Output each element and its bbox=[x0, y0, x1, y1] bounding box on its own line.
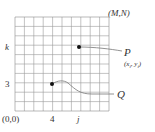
point-q-label: Q bbox=[117, 88, 125, 100]
point-q-dot bbox=[50, 82, 54, 86]
x-tick-4: 4 bbox=[50, 114, 55, 124]
max-corner-label: (M,N) bbox=[108, 8, 130, 18]
grid-diagram: (0,0) (M,N) 4 j 3 k P (xi, yi) Q bbox=[0, 0, 155, 132]
point-p-label: P bbox=[123, 46, 131, 58]
leader-line-p bbox=[79, 47, 122, 51]
grid-lines bbox=[15, 17, 109, 111]
y-tick-k: k bbox=[5, 42, 10, 52]
point-p-dot bbox=[77, 45, 81, 49]
origin-label: (0,0) bbox=[2, 114, 19, 124]
point-p-coords: (xi, yi) bbox=[124, 60, 142, 69]
y-tick-3: 3 bbox=[5, 79, 10, 89]
x-tick-j: j bbox=[76, 114, 80, 124]
